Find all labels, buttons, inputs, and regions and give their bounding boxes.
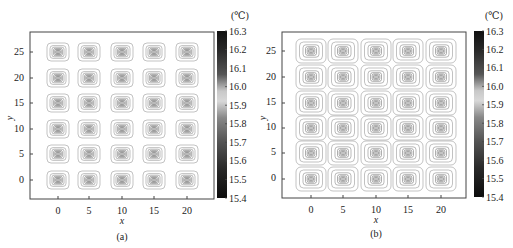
y-tick-label: 20 xyxy=(266,71,276,82)
colorbar-tick-label: 16.2 xyxy=(486,44,504,55)
x-tick-label: 20 xyxy=(436,204,446,215)
y-axis-label: y xyxy=(257,115,268,121)
colorbar-tick-label: 16.2 xyxy=(229,44,247,55)
colorbar-tick-label: 15.4 xyxy=(229,193,247,204)
colorbar-tick-label: 15.8 xyxy=(486,118,504,129)
colorbar-tick-label: 15.4 xyxy=(486,192,504,203)
colorbar-gradient xyxy=(474,31,484,197)
colorbar-unit: (℃) xyxy=(231,10,249,22)
colorbar-unit: (℃) xyxy=(485,10,503,22)
x-tick-label: 15 xyxy=(149,205,159,216)
y-axis-label: y xyxy=(4,115,15,121)
panel-a: 0 5 10 15 20 x 25 20 15 10 5 0 y (℃) 16.… xyxy=(4,10,249,243)
y-tick-label: 0 xyxy=(271,172,276,183)
x-tick-label: 5 xyxy=(87,205,92,216)
x-tick-label: 0 xyxy=(56,205,61,216)
colorbar-tick-label: 15.8 xyxy=(229,118,247,129)
y-tick-label: 15 xyxy=(266,96,276,107)
x-axis: 0 5 10 15 20 x xyxy=(56,196,193,226)
colorbar-tick-label: 16.0 xyxy=(229,81,247,92)
y-tick-label: 25 xyxy=(266,45,276,56)
x-tick-label: 20 xyxy=(182,205,192,216)
y-tick-label: 10 xyxy=(266,121,276,132)
colorbar-tick-label: 15.6 xyxy=(486,155,504,166)
colorbar: (℃) 16.316.216.116.015.915.815.715.615.5… xyxy=(474,10,504,203)
x-tick-label: 15 xyxy=(403,204,413,215)
x-axis-label: x xyxy=(373,214,379,225)
colorbar-tick-label: 15.9 xyxy=(486,99,504,110)
x-tick-label: 5 xyxy=(341,204,346,215)
colorbar-gradient xyxy=(217,31,227,198)
y-tick-label: 15 xyxy=(14,97,24,108)
colorbar-tick-label: 15.6 xyxy=(229,155,247,166)
panel-b: 0 5 10 15 20 x 25 20 15 10 5 0 y (℃) 16.… xyxy=(257,10,504,240)
figure: 0 5 10 15 20 x 25 20 15 10 5 0 y (℃) 16.… xyxy=(0,0,513,248)
y-axis: 25 20 15 10 5 0 y xyxy=(4,46,33,185)
x-tick-label: 0 xyxy=(309,204,314,215)
colorbar: (℃) 16.316.216.116.015.915.815.715.615.5… xyxy=(217,10,249,204)
y-tick-label: 5 xyxy=(271,146,276,157)
colorbar-tick-label: 16.3 xyxy=(229,26,247,37)
colorbar-tick-label: 16.3 xyxy=(486,26,504,37)
colorbar-tick-label: 16.1 xyxy=(486,62,504,73)
colorbar-tick-label: 16.1 xyxy=(229,63,247,74)
x-axis: 0 5 10 15 20 x xyxy=(309,195,447,225)
colorbar-tick-label: 15.9 xyxy=(229,100,247,111)
y-tick-label: 5 xyxy=(19,148,24,159)
y-tick-label: 20 xyxy=(14,72,24,83)
colorbar-tick-label: 15.7 xyxy=(229,137,247,148)
colorbar-tick-label: 15.7 xyxy=(486,136,504,147)
y-axis: 25 20 15 10 5 0 y xyxy=(257,45,285,183)
colorbar-tick-label: 15.5 xyxy=(229,174,247,185)
panel-caption: (a) xyxy=(116,231,127,243)
y-tick-label: 25 xyxy=(14,46,24,57)
colorbar-tick-label: 15.5 xyxy=(486,173,504,184)
y-tick-label: 10 xyxy=(14,123,24,134)
panel-caption: (b) xyxy=(370,228,382,240)
y-tick-label: 0 xyxy=(19,174,24,185)
x-axis-label: x xyxy=(119,215,125,226)
colorbar-tick-label: 16.0 xyxy=(486,81,504,92)
